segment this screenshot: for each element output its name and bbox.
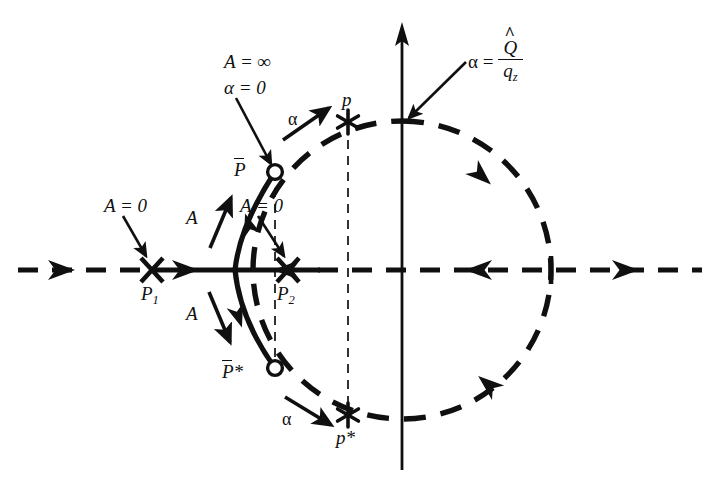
label-P2-subscript: 2 <box>289 293 295 307</box>
root-locus-figure: A = ∞ α = 0 A = 0 A = 0 P1 P2 P P* p p* … <box>0 0 714 499</box>
label-alpha-lower: α <box>282 410 291 428</box>
label-alpha-equation: α = Q qz <box>468 38 523 84</box>
label-alpha-equals-zero: α = 0 <box>224 78 266 97</box>
label-alpha-numerator: Q <box>498 38 522 60</box>
label-A-equals-zero-left: A = 0 <box>104 196 147 215</box>
label-alpha-denominator: qz <box>498 60 522 84</box>
label-alpha-denominator-base: q <box>503 60 513 81</box>
arrow-A-upper <box>210 198 231 248</box>
circle-arrow-upper-right <box>465 160 497 192</box>
label-A-upper: A <box>186 208 198 227</box>
label-P2: P2 <box>277 284 295 307</box>
marker-Pbar <box>268 165 283 180</box>
label-P-bar-star: P* <box>222 362 243 381</box>
marker-p <box>338 110 359 134</box>
label-alpha-numerator-Q: Q <box>504 38 518 58</box>
imaginary-axis <box>395 22 409 470</box>
real-axis <box>18 256 702 284</box>
circle-arrow-lower-right <box>472 369 504 400</box>
label-P1: P1 <box>141 284 159 307</box>
leader-alpha-to-circle-top <box>409 62 466 118</box>
label-A-equals-infinity: A = ∞ <box>224 52 271 71</box>
circle-direction-arrows <box>465 160 504 400</box>
label-alpha-equation-fraction: Q qz <box>498 38 522 84</box>
label-A-lower: A <box>186 304 198 323</box>
axis-arrow-center-right <box>465 260 492 280</box>
label-A-equals-zero-right: A = 0 <box>240 196 283 215</box>
label-P-bar-star-base: P <box>222 362 234 381</box>
arrow-A-lower <box>209 292 230 342</box>
label-P-bar-star-suffix: * <box>234 361 244 382</box>
label-P1-base: P <box>141 283 153 304</box>
annotation-leaders <box>123 62 466 256</box>
label-P1-subscript: 1 <box>153 293 159 307</box>
label-P2-base: P <box>277 283 289 304</box>
label-alpha-denominator-subscript: z <box>513 70 518 84</box>
label-p-star: p* <box>336 428 355 447</box>
marker-Pbar-star <box>268 361 283 376</box>
label-P-bar: P <box>234 160 246 179</box>
label-p-star-suffix: * <box>346 427 356 448</box>
label-alpha-equation-lhs: α = <box>468 52 493 71</box>
axis-arrow-far-right <box>612 260 639 280</box>
label-p-star-base: p <box>336 427 346 448</box>
leader-Ainf-to-Pbar <box>236 98 271 164</box>
figure-canvas <box>0 0 714 499</box>
label-alpha-upper: α <box>288 110 297 128</box>
leader-A0-to-P2 <box>258 216 284 256</box>
label-p: p <box>342 90 352 109</box>
leader-A0-to-P1 <box>123 216 146 256</box>
label-P-bar-base: P <box>234 160 246 179</box>
arrow-alpha-lower <box>285 397 331 425</box>
